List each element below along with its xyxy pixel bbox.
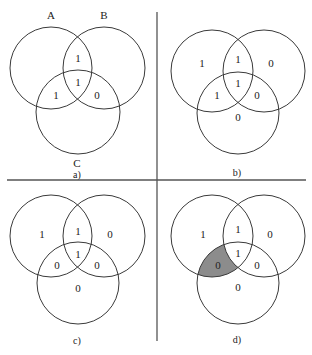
- region-abc: 1: [75, 76, 81, 88]
- region-ac: 1: [214, 89, 220, 101]
- circle-a: [171, 30, 253, 112]
- region-ac: 0: [215, 259, 221, 271]
- region-c-only: 0: [75, 282, 81, 294]
- region-abc: 1: [235, 77, 241, 89]
- region-ab: 1: [75, 52, 81, 64]
- panel-caption: a): [73, 169, 81, 181]
- circle-b: [63, 27, 145, 109]
- panel-caption: b): [233, 167, 241, 179]
- region-ac: 1: [53, 89, 59, 101]
- circle-b: [223, 195, 305, 277]
- venn-diagram-figure: A B C 1 1 1 0 a) 1 1 0 1 1 0 0 b) 1 1 0 …: [0, 0, 312, 355]
- panel-caption: c): [73, 335, 81, 347]
- region-b-only: 0: [107, 228, 113, 240]
- region-c-only: 0: [235, 281, 241, 293]
- region-ab: 1: [235, 53, 241, 65]
- circle-b: [223, 30, 305, 112]
- region-bc: 0: [94, 89, 100, 101]
- set-label-a: A: [47, 9, 55, 21]
- region-bc: 0: [94, 259, 100, 271]
- region-bc: 0: [254, 89, 260, 101]
- region-ab: 1: [75, 225, 81, 237]
- region-a-only: 1: [199, 57, 205, 69]
- region-a-only: 1: [39, 228, 45, 240]
- set-label-c: C: [73, 157, 80, 169]
- region-ab: 1: [235, 223, 241, 235]
- panel-a: A B C 1 1 1 0 a): [10, 9, 145, 181]
- panel-d: 1 1 0 1 0 0 0 d): [171, 195, 305, 346]
- region-abc: 1: [75, 248, 81, 260]
- region-b-only: 0: [267, 228, 273, 240]
- region-c-only: 0: [235, 111, 241, 123]
- region-abc: 1: [235, 247, 241, 259]
- region-a-only: 1: [200, 228, 206, 240]
- region-bc: 0: [254, 259, 260, 271]
- panel-b: 1 1 0 1 1 0 0 b): [171, 30, 305, 179]
- panel-c: 1 1 0 1 0 0 0 c): [10, 195, 145, 347]
- region-ac: 0: [54, 259, 60, 271]
- region-b-only: 0: [268, 57, 274, 69]
- set-label-b: B: [100, 9, 107, 21]
- panel-caption: d): [233, 334, 241, 346]
- circle-a: [10, 27, 92, 109]
